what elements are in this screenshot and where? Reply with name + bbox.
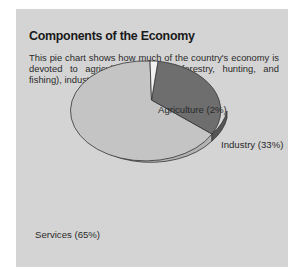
- label-agriculture: Agriculture (2%): [158, 104, 227, 115]
- label-services: Services (65%): [35, 229, 100, 240]
- chart-panel: Components of the Economy This pie chart…: [16, 9, 288, 267]
- label-industry: Industry (33%): [221, 139, 283, 150]
